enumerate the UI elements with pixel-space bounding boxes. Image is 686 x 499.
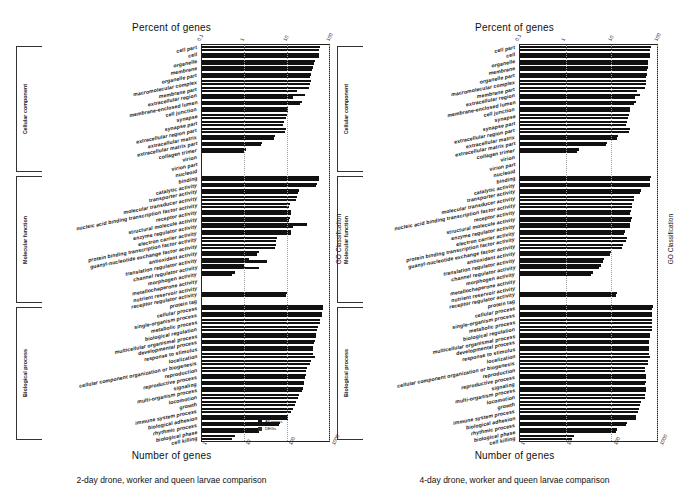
panel-4day: Percent of genes 0.1110100 1101001000 ce… xyxy=(343,0,686,499)
category-label: metallochaperone activity xyxy=(40,277,199,284)
bar-row xyxy=(202,52,329,59)
category-label: cellular component organization or bioge… xyxy=(40,360,199,367)
bar-degs xyxy=(520,212,630,214)
category-label: biological regulation xyxy=(361,325,517,332)
bar-degs xyxy=(520,342,649,344)
category-label: virion xyxy=(361,154,517,161)
bar-row xyxy=(202,291,329,298)
bar-degs xyxy=(202,185,316,187)
category-label: channel regulator activity xyxy=(361,264,517,271)
category-label: reproduction xyxy=(40,366,199,373)
bar-degs xyxy=(202,247,275,249)
bar-degs xyxy=(520,294,616,296)
category-label: morphogen activity xyxy=(361,270,517,277)
bar-row xyxy=(202,345,329,352)
bar-row xyxy=(520,202,657,209)
category-label: synapse part xyxy=(40,119,199,126)
bar-row xyxy=(202,161,329,168)
plot-area-left xyxy=(201,44,330,442)
legend-label: All genes xyxy=(265,419,282,424)
bar-degs xyxy=(520,110,630,112)
bar-row xyxy=(520,339,657,346)
category-label: electron carrier activity xyxy=(40,229,199,236)
category-label: protein binding transcription factor act… xyxy=(40,236,199,243)
bar-row xyxy=(202,250,329,257)
bar-degs xyxy=(520,349,649,351)
category-label: biological adhesion xyxy=(40,414,199,421)
bar-degs xyxy=(520,370,645,372)
bar-degs xyxy=(520,96,635,98)
bar-degs xyxy=(202,212,291,214)
category-label: binding xyxy=(40,174,199,181)
category-label: extracellular matrix part xyxy=(40,140,199,147)
bar-row xyxy=(202,236,329,243)
bar-row xyxy=(520,359,657,366)
bar-rows-left xyxy=(202,45,329,441)
bar-row xyxy=(520,318,657,325)
category-label: channel regulator activity xyxy=(40,264,199,271)
bar-degs xyxy=(520,90,637,92)
bar-row xyxy=(520,277,657,284)
bar-row xyxy=(520,223,657,230)
bar-degs xyxy=(520,178,650,180)
bar-row xyxy=(202,373,329,380)
bar-row xyxy=(520,113,657,120)
category-label: guanyl-nucleotide exchange factor activi… xyxy=(40,243,199,250)
bar-degs xyxy=(202,55,319,57)
bar-degs xyxy=(202,144,261,146)
category-label: membrane xyxy=(361,65,517,72)
bar-degs xyxy=(520,124,626,126)
bar-row xyxy=(202,298,329,305)
bar-row xyxy=(202,400,329,407)
group-bracket: Cellular component xyxy=(16,46,42,172)
bar-row xyxy=(520,168,657,175)
bar-row xyxy=(202,168,329,175)
gridline xyxy=(244,45,245,441)
bar-degs xyxy=(202,233,291,235)
bar-row xyxy=(520,86,657,93)
category-label: cellular process xyxy=(40,305,199,312)
bar-degs xyxy=(520,151,577,153)
bar-degs xyxy=(202,199,296,201)
category-labels-left: cell partcellorganellemembraneorganelle … xyxy=(40,44,199,442)
bar-row xyxy=(202,304,329,311)
bar-row xyxy=(202,216,329,223)
category-label: rhythmic process xyxy=(361,421,517,428)
category-label: locomotion xyxy=(40,394,199,401)
category-label: cell part xyxy=(361,44,517,51)
bar-degs xyxy=(520,55,650,57)
bar-degs xyxy=(202,411,291,413)
bar-row xyxy=(520,421,657,428)
bar-degs xyxy=(520,329,652,331)
top-axis-ticks-left: 0.1110100 xyxy=(201,30,330,42)
bar-row xyxy=(520,127,657,134)
category-label: electron carrier activity xyxy=(361,229,517,236)
category-label: single-organism process xyxy=(361,312,517,319)
bar-degs xyxy=(202,363,310,365)
bar-row xyxy=(202,202,329,209)
category-label: single-organism process xyxy=(40,312,199,319)
category-label: response to stimulus xyxy=(40,346,199,353)
gridline xyxy=(329,45,330,441)
gridline xyxy=(566,45,567,441)
category-label: metabolic process xyxy=(40,318,199,325)
bar-row xyxy=(520,264,657,271)
axis-tick: 10 xyxy=(282,34,290,42)
bar-row xyxy=(520,298,657,305)
category-label: cell junction xyxy=(40,106,199,113)
category-label: metabolic process xyxy=(361,318,517,325)
bottom-axis-title-left: Number of genes xyxy=(0,450,343,461)
category-label: growth xyxy=(361,401,517,408)
bar-degs xyxy=(520,192,640,194)
category-label: immune system process xyxy=(361,408,517,415)
category-label: growth xyxy=(40,401,199,408)
bar-degs xyxy=(520,383,645,385)
category-label: reproductive process xyxy=(40,373,199,380)
category-label: receptor activity xyxy=(361,209,517,216)
category-label: virion part xyxy=(361,161,517,168)
category-label: catalytic activity xyxy=(40,181,199,188)
category-label: multicellular organismal process xyxy=(361,332,517,339)
category-label: organelle part xyxy=(361,71,517,78)
bar-row xyxy=(520,175,657,182)
bar-row xyxy=(202,127,329,134)
